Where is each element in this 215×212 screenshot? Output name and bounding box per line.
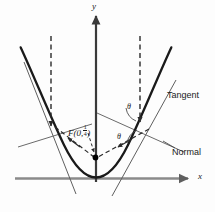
- normal-label: Normal: [172, 148, 201, 157]
- focus-point-group: [93, 155, 99, 161]
- focus-label-prefix: F(0,: [68, 128, 83, 138]
- x-axis-label: x: [198, 172, 202, 181]
- axes-group: [15, 16, 188, 182]
- parabola-reflection-figure: y x F(0,14) Tangent Normal θ θ: [0, 0, 215, 212]
- focus-label: F(0,14): [68, 124, 90, 138]
- tangent-label: Tangent: [167, 91, 199, 100]
- focus-dot: [93, 155, 99, 161]
- y-axis-label: y: [92, 2, 96, 11]
- figure-canvas: [0, 0, 215, 212]
- theta-upper-label: θ: [127, 103, 131, 111]
- focus-label-suffix: ): [87, 128, 90, 138]
- theta-lower-label: θ: [117, 133, 121, 141]
- reflected-ray-left-arrowhead: [68, 138, 80, 147]
